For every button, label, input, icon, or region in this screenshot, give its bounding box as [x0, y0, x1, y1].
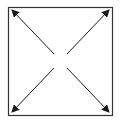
- diagram-canvas: [0, 0, 120, 130]
